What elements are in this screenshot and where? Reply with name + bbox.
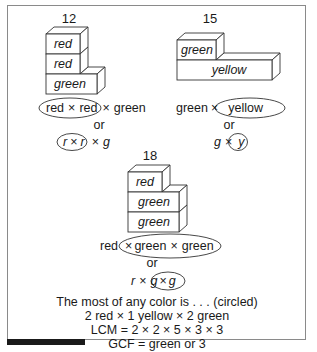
group-18-number: 18 — [143, 148, 157, 163]
expr-15-letters: g×y — [214, 135, 245, 149]
block-18-label-3: green — [138, 215, 170, 229]
diagram-canvas: 12 red red green red×red×green or r×r×g … — [0, 0, 317, 352]
group-12-number: 12 — [62, 11, 76, 26]
summary-line-2: 2 red × 1 yellow × 2 green — [85, 309, 230, 323]
expr-18-words: red×green×green — [100, 239, 214, 253]
or-18: or — [146, 256, 157, 270]
or-15: or — [223, 118, 234, 132]
summary-line-4-gcf: GCF = green or 3 — [108, 337, 206, 351]
block-12-label-3: green — [54, 77, 86, 91]
group-15-number: 15 — [203, 11, 217, 26]
summary-line-3-lcm: LCM = 2 × 2 × 5 × 3 × 3 — [91, 323, 223, 337]
summary-line-1: The most of any color is . . . (circled) — [56, 295, 257, 309]
expr-18-letters: r×g×g — [131, 274, 176, 288]
block-18-label-1: red — [136, 175, 155, 189]
block-18-label-2: green — [138, 195, 170, 209]
expr-12-words: red×red×green — [46, 101, 146, 115]
expr-12-letters: r×r×g — [63, 135, 110, 149]
block-15-label-1: green — [181, 43, 213, 57]
or-12: or — [93, 118, 104, 132]
block-12-label-2: red — [54, 57, 73, 71]
block-15-label-2: yellow — [211, 63, 248, 77]
block-12-label-1: red — [54, 37, 73, 51]
